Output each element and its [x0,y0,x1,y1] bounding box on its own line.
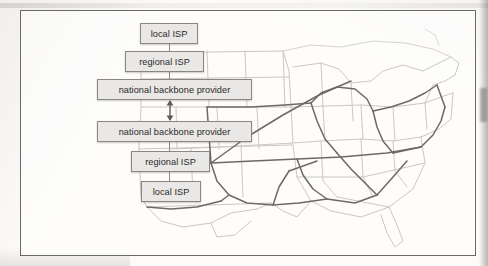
scan-artifact-top [0,3,488,8]
node-local-isp-top[interactable]: local ISP [140,23,198,44]
node-label: regional ISP [145,157,196,167]
connector-regional-to-backbone-top [169,72,170,79]
connector-local-to-regional-top [169,44,170,51]
figure-frame: local ISP regional ISP national backbone… [20,10,476,256]
node-label: national backbone provider [119,85,231,95]
node-label: local ISP [153,187,190,197]
node-regional-isp-bottom[interactable]: regional ISP [131,151,210,172]
peering-arrow [161,99,179,122]
node-national-backbone-provider-top[interactable]: national backbone provider [97,79,252,100]
scan-artifact-right-blob [480,88,487,122]
connector-regional-to-local-bottom [169,172,170,181]
node-label: regional ISP [139,57,190,67]
node-label: local ISP [151,29,188,39]
connector-backbone-to-regional-bottom [169,142,170,151]
node-national-backbone-provider-bottom[interactable]: national backbone provider [97,121,252,142]
node-label: national backbone provider [119,127,231,137]
node-regional-isp-top[interactable]: regional ISP [125,51,204,72]
scan-artifact-right-gutter [479,0,488,266]
node-local-isp-bottom[interactable]: local ISP [141,181,201,202]
isp-hierarchy-diagram: local ISP regional ISP national backbone… [21,11,476,256]
